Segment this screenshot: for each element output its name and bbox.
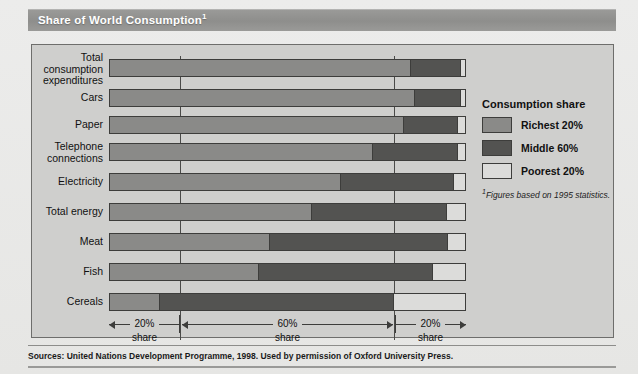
bar-segment-middle — [341, 174, 454, 190]
axis-pct-2: 20% — [416, 318, 444, 329]
stacked-bar — [109, 116, 466, 134]
legend-item[interactable]: Richest 20% — [482, 117, 638, 133]
legend-label: Poorest 20% — [521, 165, 584, 177]
bar-segment-richest — [110, 90, 415, 106]
bar-segment-poorest — [458, 117, 465, 133]
legend-item[interactable]: Middle 60% — [482, 140, 638, 156]
axis-caption-1: 60% share — [182, 319, 393, 343]
category-label: Electricity — [0, 176, 103, 188]
stacked-bar — [109, 233, 466, 251]
bar-segment-poorest — [458, 144, 465, 160]
stacked-bar — [109, 203, 466, 221]
category-label: Paper — [0, 119, 103, 131]
bar-segment-richest — [110, 264, 259, 280]
bar-segment-richest — [110, 294, 160, 310]
bar-segment-richest — [110, 144, 373, 160]
legend-swatch-richest — [482, 117, 512, 133]
bar-segment-middle — [259, 264, 433, 280]
category-label: Total energy — [0, 206, 103, 218]
axis-sub-0: share — [109, 332, 180, 343]
figure-container: Share of World Consumption1 Total consum… — [0, 0, 638, 374]
bar-segment-poorest — [447, 204, 465, 220]
bar-row: Electricity — [109, 173, 466, 191]
bar-row: Cereals — [109, 293, 466, 311]
bar-segment-middle — [415, 90, 461, 106]
title-banner: Share of World Consumption1 — [28, 9, 616, 31]
category-label: Total consumption expenditures — [0, 52, 103, 87]
plot-area: Total consumption expendituresCarsPaperT… — [109, 56, 466, 308]
axis-caption-0: 20% share — [109, 319, 180, 343]
legend-item[interactable]: Poorest 20% — [482, 163, 638, 179]
page-title: Share of World Consumption1 — [38, 12, 207, 26]
axis-pct-1: 60% — [273, 318, 301, 329]
bar-segment-middle — [404, 117, 458, 133]
bar-segment-middle — [270, 234, 448, 250]
bar-segment-middle — [373, 144, 459, 160]
axis-sub-1: share — [182, 332, 393, 343]
title-footnote-marker: 1 — [202, 12, 207, 21]
bar-row: Meat — [109, 233, 466, 251]
legend-label: Middle 60% — [521, 142, 578, 154]
bar-segment-poorest — [461, 90, 465, 106]
bar-segment-middle — [160, 294, 395, 310]
bar-segment-richest — [110, 117, 404, 133]
bar-segment-poorest — [433, 264, 465, 280]
source-divider — [28, 345, 616, 346]
source-note: Sources: United Nations Development Prog… — [28, 351, 453, 361]
category-label: Cars — [0, 92, 103, 104]
bar-row: Fish — [109, 263, 466, 281]
bar-segment-richest — [110, 174, 341, 190]
category-label: Telephone connections — [0, 141, 103, 164]
stacked-bar — [109, 173, 466, 191]
category-label: Fish — [0, 266, 103, 278]
page-title-text: Share of World Consumption — [38, 14, 202, 26]
bar-segment-middle — [312, 204, 447, 220]
axis-sub-2: share — [395, 332, 466, 343]
bar-row: Total consumption expenditures — [109, 59, 466, 77]
bar-row: Paper — [109, 116, 466, 134]
bar-segment-middle — [411, 60, 461, 76]
stacked-bar — [109, 89, 466, 107]
bar-segment-poorest — [461, 60, 465, 76]
bar-segment-richest — [110, 60, 411, 76]
category-label: Cereals — [0, 296, 103, 308]
stacked-bar — [109, 263, 466, 281]
legend-label: Richest 20% — [521, 119, 583, 131]
stacked-bar — [109, 293, 466, 311]
legend-swatch-middle — [482, 140, 512, 156]
legend-footnote: 1Figures based on 1995 statistics. — [482, 186, 638, 201]
stacked-bar — [109, 143, 466, 161]
chart-panel: Total consumption expendituresCarsPaperT… — [31, 44, 614, 338]
bar-segment-poorest — [448, 234, 465, 250]
bar-segment-richest — [110, 234, 270, 250]
axis-pct-0: 20% — [130, 318, 158, 329]
legend: Consumption share Richest 20%Middle 60%P… — [482, 98, 638, 201]
bar-row: Cars — [109, 89, 466, 107]
legend-items: Richest 20%Middle 60%Poorest 20% — [482, 117, 638, 179]
bar-row: Total energy — [109, 203, 466, 221]
category-label: Meat — [0, 236, 103, 248]
bar-segment-poorest — [394, 294, 465, 310]
legend-swatch-poorest — [482, 163, 512, 179]
legend-title: Consumption share — [482, 98, 638, 110]
bottom-divider — [28, 366, 616, 368]
stacked-bar — [109, 59, 466, 77]
axis-caption-2: 20% share — [395, 319, 466, 343]
bar-segment-richest — [110, 204, 312, 220]
bar-row: Telephone connections — [109, 143, 466, 161]
bar-segment-poorest — [454, 174, 465, 190]
legend-footnote-text: Figures based on 1995 statistics. — [486, 190, 610, 200]
